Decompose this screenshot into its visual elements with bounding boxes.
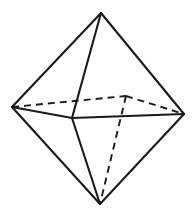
octahedron-figure [0,0,196,217]
octahedron-svg [0,0,196,217]
